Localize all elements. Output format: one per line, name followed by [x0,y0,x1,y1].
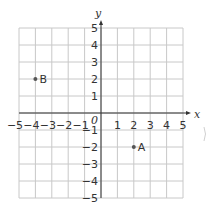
y-axis-label: y [94,7,102,20]
y-tick-label: 5 [91,22,98,35]
x-tick-label: −2 [56,119,72,132]
x-tick-label: −5 [7,119,23,132]
page-edge-mark [204,127,206,141]
x-tick-label: 1 [114,119,121,132]
y-tick-label: −3 [82,158,98,171]
y-tick-label: 4 [91,39,98,52]
x-tick-label: 3 [147,119,154,132]
x-tick-label: 2 [130,119,137,132]
coordinate-plane: x y 0 −5−4−3−2−112345 54321−1−2−3−4−5 AB [0,0,212,213]
point-label: B [39,73,47,86]
x-axis-label: x [194,108,201,121]
y-axis-arrow-icon [99,20,103,25]
x-tick-label: −4 [23,119,39,132]
x-axis-arrow-icon [186,111,191,115]
y-tick-label: −4 [82,175,98,188]
y-tick-label: 3 [91,56,98,69]
x-tick-label: 5 [180,119,187,132]
y-tick-label: 2 [91,73,98,86]
point-marker-icon [33,77,37,81]
point-marker-icon [132,145,136,149]
point-label: A [138,141,146,154]
axes: x y 0 [19,7,201,198]
y-tick-label: −1 [82,124,98,137]
y-tick-label: −2 [82,141,98,154]
y-tick-label: 1 [91,90,98,103]
y-tick-label: −5 [82,192,98,205]
x-tick-label: 4 [163,119,170,132]
x-tick-label: −3 [40,119,56,132]
